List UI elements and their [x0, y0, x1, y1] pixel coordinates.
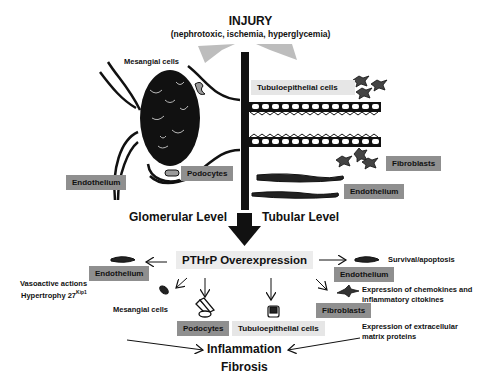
- tubuloepithelial-cell-icon: [268, 306, 279, 317]
- effect-fibroblasts-label: Fibroblasts: [316, 303, 371, 318]
- injury-subtitle: (nephrotoxic, ischemia, hyperglycemia): [0, 29, 501, 39]
- fibroblast-cluster-bottom-icon: [336, 148, 378, 169]
- chemokines-note-line1: Expression of chemokines and: [362, 285, 472, 294]
- arrow-to-fibroblasts: [316, 279, 327, 290]
- hypertrophy-note: Hypertrophy 27Kip1: [21, 289, 87, 300]
- vasoactive-actions-note: Vasoactive actions: [20, 279, 87, 288]
- arrow-to-mesangial: [176, 278, 187, 288]
- tubule-upper-row: [249, 102, 381, 115]
- tubule-lower-row: [249, 134, 381, 147]
- effect-podocytes-label: Podocytes: [177, 321, 229, 336]
- fibroblast-cluster-top-icon: [353, 76, 387, 99]
- arrow-right-to-inflammation: [288, 338, 360, 350]
- injury-title: INJURY: [0, 14, 501, 28]
- mesangial-cells-label: Mesangial cells: [124, 57, 179, 66]
- ecm-note-line2: matrix proteins: [362, 332, 416, 341]
- pthrp-overexpression-box: PTHrP Overexpression: [176, 251, 313, 269]
- glomerular-level-label: Glomerular Level: [129, 210, 227, 224]
- effect-endothelium-right-label: Endothelium: [334, 267, 394, 282]
- effect-endothelium-left-label: Endothelium: [89, 266, 149, 281]
- tubuloepithelial-cells-label: Tubuloepithelial cells: [251, 80, 355, 95]
- endothelium-cell-left-icon: [111, 257, 135, 263]
- effect-mesangial-label: Mesangial cells: [113, 305, 168, 314]
- ecm-note-line1: Expression of extracellular: [362, 322, 458, 331]
- glomerular-endothelium-label: Endothelium: [66, 175, 126, 190]
- divider-bar: [241, 52, 249, 210]
- endothelium-strand-icon: [252, 174, 344, 198]
- inflammation-label: Inflammation: [207, 342, 282, 356]
- fibroblast-cell-icon: [337, 285, 359, 297]
- kip1-superscript: Kip1: [76, 289, 87, 295]
- lightning-right-icon: [256, 44, 297, 60]
- tubular-level-label: Tubular Level: [262, 210, 339, 224]
- lightning-left-icon: [198, 44, 235, 63]
- mesangial-cell-icon: [158, 284, 170, 295]
- hypertrophy-text: Hypertrophy 27: [21, 291, 76, 300]
- chemokines-note-line2: inflammatory citokines: [362, 295, 444, 304]
- effect-tubuloepithelial-label: Tubuloepithelial cells: [232, 321, 325, 336]
- big-down-arrow-icon: [228, 213, 261, 246]
- endothelium-cell-right-icon: [355, 257, 379, 263]
- survival-apoptosis-note: Survival/apoptosis: [388, 255, 455, 264]
- tubular-endothelium-label: Endothelium: [344, 184, 404, 199]
- podocyte-cell-icon: [196, 298, 214, 317]
- fibroblasts-label: Fibroblasts: [386, 156, 441, 171]
- podocytes-label: Podocytes: [181, 166, 233, 181]
- arrow-left-to-inflammation: [127, 340, 203, 350]
- fibrosis-label: Fibrosis: [221, 360, 268, 374]
